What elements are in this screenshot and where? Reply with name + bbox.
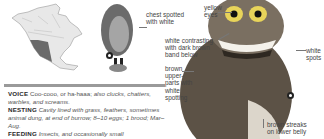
annotation-spots: white spots — [306, 47, 321, 61]
range-map — [8, 2, 86, 72]
nesting-label: NESTING — [8, 106, 37, 113]
voice-text: Coo-cooo, or ha-haaa; — [30, 90, 92, 97]
owl-illustration-small — [96, 0, 138, 72]
annotation-upperparts: brown upper- parts with white spotting — [165, 65, 192, 101]
feeding-label: FEEDING — [8, 130, 37, 137]
nesting-paragraph: NESTING Cavity lined with grass, feather… — [8, 106, 166, 130]
annotation-band: white contrasting with dark brown band b… — [165, 37, 213, 59]
species-info: VOICE Coo-cooo, or ha-haaa; also clucks,… — [8, 90, 166, 138]
leader-line — [296, 50, 306, 51]
annotation-eyes: yellow eyes — [204, 4, 222, 18]
voice-label: VOICE — [8, 90, 28, 97]
annotation-chest: chest spotted with white — [146, 11, 184, 25]
leader-line — [139, 27, 147, 28]
leader-line — [263, 119, 264, 128]
female-symbol-icon — [287, 92, 294, 99]
voice-paragraph: VOICE Coo-cooo, or ha-haaa; also clucks,… — [8, 90, 166, 106]
female-symbol-icon — [106, 52, 113, 59]
annotation-belly: brown streaks on lower belly — [267, 121, 307, 135]
feeding-text: Insects, and occasionally small — [39, 130, 124, 137]
section-divider — [4, 84, 165, 87]
feeding-paragraph: FEEDING Insects, and occasionally small — [8, 130, 166, 138]
